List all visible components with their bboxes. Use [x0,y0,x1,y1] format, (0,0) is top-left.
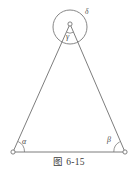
beta-angle-arc [114,142,120,152]
angle-label-beta: β [107,136,111,144]
apex-circle [53,10,87,44]
figure-caption: 图 6-15 [0,154,138,168]
geometry-diagram-canvas [0,0,138,171]
triangle-left-side [13,24,70,152]
angle-label-alpha: α [22,138,26,146]
apex-vertex-marker [68,22,72,26]
triangle-right-side [70,24,125,152]
angle-label-delta: δ [85,8,89,16]
figure-container: α β γ δ 图 6-15 [0,0,138,171]
angle-label-gamma: γ [66,33,69,41]
